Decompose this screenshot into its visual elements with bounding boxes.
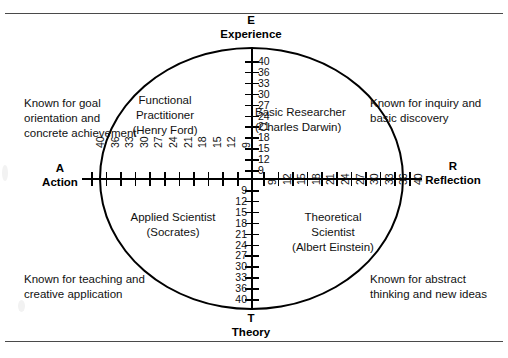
axis-letter-r: R [408,160,498,174]
tick-theory-24 [245,245,259,247]
description-bottom-left: Known for teaching and creative applicat… [24,272,174,302]
axis-letter-a: A [25,162,95,176]
ticklabel-reflection-18: 18 [311,173,322,185]
tick-action-33 [120,172,122,186]
role-line-1: Basic Researcher [255,105,367,120]
tick-experience-40 [245,61,259,63]
axis-word-experience: Experience [201,28,301,42]
scan-artifact-left [2,165,8,181]
axis-label-theory: T Theory [201,312,301,339]
role-line-1: Theoretical [278,210,388,225]
tick-experience-9 [245,170,259,172]
axis-label-experience: E Experience [201,14,301,41]
tick-action-30 [135,172,137,186]
tick-action-36 [106,172,108,186]
ticklabel-action-24: 24 [168,136,179,148]
tick-action-12 [222,172,224,186]
axis-word-action: Action [25,176,95,190]
ticklabel-action-15: 15 [212,136,223,148]
tick-theory-40 [245,299,259,301]
ticklabel-experience-40: 40 [258,56,270,67]
axis-word-theory: Theory [201,326,301,340]
ticklabel-experience-33: 33 [258,78,270,89]
ticklabel-reflection-15: 15 [296,173,307,185]
description-top-right: Known for inquiry and basic discovery [370,96,500,126]
tick-experience-12 [245,159,259,161]
tick-reflection-24 [336,172,338,186]
tick-theory-12 [245,201,259,203]
role-line-2: (Socrates) [113,225,233,240]
role-line-2: Scientist [278,225,388,240]
ticklabel-action-18: 18 [197,136,208,148]
axis-letter-t: T [201,312,301,326]
ticklabel-action-9: 9 [241,142,252,148]
tick-reflection-18 [307,172,309,186]
tick-theory-36 [245,288,259,290]
tick-action-27 [149,172,151,186]
tick-experience-15 [245,148,259,150]
role-theoretical-scientist: Theoretical Scientist (Albert Einstein) [278,210,388,255]
axis-label-action: A Action [25,162,95,189]
ticklabel-reflection-21: 21 [325,173,336,185]
bottom-rule [5,341,503,342]
tick-experience-18 [245,137,259,139]
ticklabel-experience-9: 9 [258,165,264,176]
ticklabel-reflection-30: 30 [369,173,380,185]
tick-action-18 [193,172,195,186]
ticklabel-action-12: 12 [226,136,237,148]
tick-theory-9 [245,190,259,192]
tick-reflection-33 [380,172,382,186]
ticklabel-reflection-24: 24 [340,173,351,185]
tick-theory-30 [245,266,259,268]
tick-theory-18 [245,223,259,225]
tick-action-9 [237,172,239,186]
axis-label-reflection: R Reflection [408,160,498,187]
tick-action-15 [208,172,210,186]
role-line-3: (Albert Einstein) [278,240,388,255]
tick-action-21 [179,172,181,186]
ticklabel-action-21: 21 [183,136,194,148]
tick-theory-21 [245,234,259,236]
ticklabel-reflection-12: 12 [282,173,293,185]
tick-theory-15 [245,212,259,214]
tick-experience-33 [245,83,259,85]
tick-experience-36 [245,72,259,74]
description-top-left: Known for goal orientation and concrete … [24,96,144,141]
ticklabel-reflection-27: 27 [355,173,366,185]
ticklabel-theory-9: 9 [225,185,247,196]
axis-letter-e: E [201,14,301,28]
tick-theory-27 [245,255,259,257]
role-basic-researcher: Basic Researcher (Charles Darwin) [255,105,367,135]
diagram-canvas: 4036333027242118151299121518212427303336… [0,0,508,358]
ticklabel-reflection-33: 33 [384,173,395,185]
description-bottom-right: Known for abstract thinking and new idea… [370,272,505,302]
axis-word-reflection: Reflection [408,174,498,188]
ticklabel-experience-30: 30 [258,89,270,100]
ticklabel-action-27: 27 [153,136,164,148]
tick-theory-33 [245,277,259,279]
ticklabel-theory-12: 12 [225,196,247,207]
role-line-1: Applied Scientist [113,210,233,225]
ticklabel-reflection-9: 9 [267,179,278,185]
tick-experience-30 [245,94,259,96]
ticklabel-theory-40: 40 [225,294,247,305]
tick-action-24 [164,172,166,186]
role-applied-scientist: Applied Scientist (Socrates) [113,210,233,240]
ticklabel-experience-36: 36 [258,67,270,78]
role-line-2: (Charles Darwin) [255,120,367,135]
